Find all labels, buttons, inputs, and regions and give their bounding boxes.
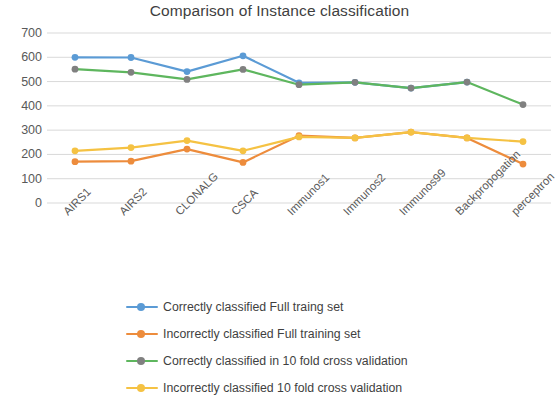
data-point-marker xyxy=(128,144,135,151)
y-axis-tick-label: 200 xyxy=(21,147,42,161)
data-point-marker xyxy=(240,66,247,73)
y-axis-tick-label: 500 xyxy=(21,75,42,89)
data-point-marker xyxy=(128,158,135,165)
data-point-marker xyxy=(240,52,247,59)
legend-item[interactable]: Correctly classified Full traing set xyxy=(126,293,526,320)
data-point-marker xyxy=(296,81,303,88)
y-axis-tick-label: 600 xyxy=(21,50,42,64)
data-point-marker xyxy=(184,68,191,75)
data-point-marker xyxy=(520,161,527,168)
data-point-marker xyxy=(128,69,135,76)
series-layer xyxy=(47,33,551,203)
data-point-marker xyxy=(72,66,79,73)
legend-item-label: Incorrectly classified Full training set xyxy=(163,327,361,341)
data-point-marker xyxy=(464,135,471,142)
legend-swatch-icon xyxy=(126,382,158,394)
legend-item-label: Correctly classified Full traing set xyxy=(163,300,343,314)
legend-swatch-icon xyxy=(126,328,158,340)
y-axis-tick-label: 300 xyxy=(21,123,42,137)
legend-item[interactable]: Incorrectly classified Full training set xyxy=(126,320,526,347)
y-axis-tick-label: 100 xyxy=(21,172,42,186)
legend-item[interactable]: Incorrectly classified 10 fold cross val… xyxy=(126,374,526,401)
line-chart: Comparison of Instance classification 70… xyxy=(0,0,559,408)
legend-marker-dot xyxy=(137,330,145,338)
data-point-marker xyxy=(184,146,191,153)
data-point-marker xyxy=(72,54,79,61)
data-point-marker xyxy=(72,158,79,165)
data-point-marker xyxy=(296,134,303,141)
legend-swatch-icon xyxy=(126,301,158,313)
legend-marker-dot xyxy=(137,357,145,365)
data-point-marker xyxy=(520,138,527,145)
legend-swatch-icon xyxy=(126,355,158,367)
data-point-marker xyxy=(240,159,247,166)
y-axis: 7006005004003002001000 xyxy=(0,33,42,203)
data-point-marker xyxy=(352,79,359,86)
legend-item-label: Correctly classified in 10 fold cross va… xyxy=(163,354,408,368)
y-axis-tick-label: 0 xyxy=(35,196,42,210)
legend-marker-dot xyxy=(137,384,145,392)
data-point-marker xyxy=(408,85,415,92)
data-point-marker xyxy=(72,147,79,154)
plot-area xyxy=(47,33,551,203)
data-point-marker xyxy=(184,76,191,83)
data-point-marker xyxy=(240,147,247,154)
legend-item-label: Incorrectly classified 10 fold cross val… xyxy=(163,381,402,395)
data-point-marker xyxy=(408,129,415,136)
data-point-marker xyxy=(128,54,135,61)
data-point-marker xyxy=(352,135,359,142)
chart-title: Comparison of Instance classification xyxy=(0,2,559,20)
data-point-marker xyxy=(464,79,471,86)
y-axis-tick-label: 400 xyxy=(21,99,42,113)
x-axis: AIRS1AIRS2CLONALGCSCAImmunos1Immunos2Imm… xyxy=(47,203,551,281)
chart-legend: Correctly classified Full traing setInco… xyxy=(126,293,526,401)
legend-marker-dot xyxy=(137,303,145,311)
series-group xyxy=(72,66,527,108)
data-point-marker xyxy=(520,101,527,108)
legend-item[interactable]: Correctly classified in 10 fold cross va… xyxy=(126,347,526,374)
y-axis-tick-label: 700 xyxy=(21,26,42,40)
data-point-marker xyxy=(184,137,191,144)
